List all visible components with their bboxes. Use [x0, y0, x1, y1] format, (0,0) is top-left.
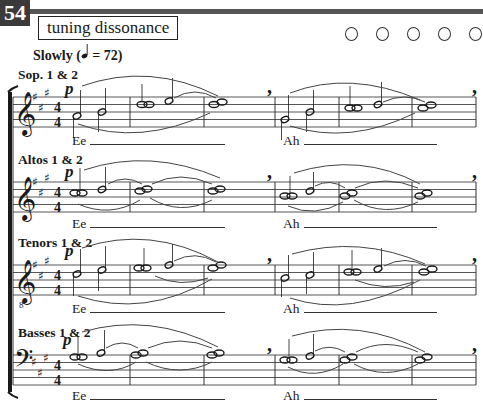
- score-systems: 𝄞 𝄞 𝄞 8 𝄢 ♯♯♯ ♯♯♯ ♯♯♯ ♯♯♯ 44 44 44 44 p …: [0, 0, 483, 410]
- breath-mark: ,: [472, 75, 477, 97]
- dynamic-piano: p: [63, 162, 74, 181]
- lyric-soprano-ee: Ee: [72, 133, 225, 149]
- breath-mark: ,: [472, 333, 477, 355]
- sharp-icon: ♯: [44, 254, 50, 268]
- staff-alto: [13, 182, 476, 212]
- time-sig-top: 4: [54, 100, 61, 115]
- notes-tenor: [72, 244, 437, 297]
- sharp-icon: ♯: [43, 351, 49, 365]
- lyric-soprano-ah: Ah: [283, 133, 437, 149]
- time-sig-top: 4: [54, 185, 61, 200]
- sharp-icon: ♯: [38, 186, 44, 200]
- sharp-icon: ♯: [37, 366, 43, 380]
- breath-mark: ,: [267, 243, 272, 265]
- sharp-icon: ♯: [31, 355, 37, 369]
- notes-bass: [70, 330, 432, 363]
- lyric-alto-ee: Ee: [72, 216, 225, 232]
- sharp-icon: ♯: [32, 175, 38, 189]
- time-sig-top: 4: [54, 358, 61, 373]
- breath-mark: ,: [267, 333, 272, 355]
- lyric-tenor-ah: Ah: [283, 301, 437, 317]
- dynamic-piano: p: [61, 330, 72, 349]
- slurs-alto: [78, 161, 420, 211]
- sharp-icon: ♯: [32, 90, 38, 104]
- notes-alto: [70, 167, 432, 199]
- octave-8-icon: 8: [19, 300, 24, 310]
- time-sig-bottom: 4: [54, 115, 61, 130]
- lyric-bass-ah: Ah: [283, 388, 437, 404]
- lyric-tenor-ee: Ee: [72, 301, 225, 317]
- sharp-icon: ♯: [38, 101, 44, 115]
- breath-mark: ,: [472, 243, 477, 265]
- time-signatures: 44 44 44 44: [54, 100, 61, 388]
- lyric-bass-ee: Ee: [72, 388, 225, 404]
- breath-mark: ,: [267, 75, 272, 97]
- time-sig-bottom: 4: [54, 283, 61, 298]
- sharp-icon: ♯: [44, 86, 50, 100]
- breath-mark: ,: [267, 160, 272, 182]
- staff-soprano: [13, 97, 476, 127]
- dynamic-piano: p: [63, 79, 74, 98]
- time-sig-bottom: 4: [54, 200, 61, 215]
- staff-tenor: [13, 265, 476, 295]
- lyric-alto-ah: Ah: [283, 216, 437, 232]
- dynamic-piano: p: [63, 241, 74, 260]
- time-sig-bottom: 4: [54, 373, 61, 388]
- breath-mark: ,: [472, 160, 477, 182]
- sharp-icon: ♯: [32, 258, 38, 272]
- sharp-icon: ♯: [38, 269, 44, 283]
- sharp-icon: ♯: [44, 171, 50, 185]
- time-sig-top: 4: [54, 268, 61, 283]
